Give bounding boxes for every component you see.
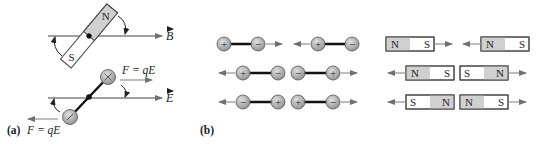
magnet-r1-b: N S — [463, 37, 529, 51]
force-bottom-label: F = qE — [26, 124, 60, 137]
svg-text:S: S — [444, 67, 450, 79]
svg-text:+: + — [221, 38, 227, 50]
svg-text:−: − — [349, 38, 355, 50]
svg-text:S: S — [424, 38, 430, 50]
panel-a-label: (a) — [7, 124, 21, 137]
torque-arrow-top-icon — [118, 16, 126, 34]
magnet-r3-a: S N — [388, 95, 454, 109]
svg-text:−: − — [240, 96, 246, 108]
top-charge-positive — [101, 70, 116, 85]
panel-b-label: (b) — [200, 124, 214, 137]
magnet-r3-b: N S — [460, 95, 526, 109]
svg-text:S: S — [498, 96, 504, 108]
svg-text:−: − — [295, 67, 301, 79]
dipole-torque-top-icon — [121, 85, 126, 97]
figure-canvas: B N S E — [0, 0, 542, 144]
svg-text:S: S — [464, 67, 470, 79]
svg-text:N: N — [486, 38, 494, 50]
panel-a: B N S E — [7, 4, 174, 137]
magnet-north-label: N — [102, 10, 110, 22]
svg-text:+: + — [295, 96, 301, 108]
svg-text:S: S — [519, 38, 525, 50]
e-field-label: E — [165, 91, 174, 105]
svg-text:N: N — [391, 38, 399, 50]
magnet-r2-a: N S — [388, 66, 454, 80]
svg-text:−: − — [275, 67, 281, 79]
panel-b-magnets: N S N S N S S N — [386, 37, 529, 109]
svg-text:+: + — [330, 67, 336, 79]
b-field-label: B — [166, 29, 174, 43]
dipole-pivot — [86, 94, 92, 100]
bottom-charge-negative — [63, 110, 78, 125]
dipole-r1-a: + − — [217, 37, 282, 51]
svg-text:S: S — [410, 96, 416, 108]
svg-text:N: N — [442, 96, 450, 108]
force-top-label: F = qE — [121, 64, 155, 77]
dipole-r2-b: − + — [291, 66, 357, 80]
svg-text:+: + — [315, 38, 321, 50]
dipole-r3-a: − + — [219, 95, 285, 109]
svg-text:+: + — [240, 67, 246, 79]
svg-text:N: N — [411, 67, 419, 79]
magnet-r1-a: N S — [386, 37, 452, 51]
torque-arrow-bottom-icon — [54, 37, 62, 56]
magnet-r2-b: S N — [460, 66, 526, 80]
magnet-south-label: S — [69, 51, 75, 63]
svg-text:−: − — [330, 96, 336, 108]
panel-b: (b) + − + − + − — [200, 37, 359, 137]
svg-text:N: N — [496, 67, 504, 79]
svg-text:N: N — [465, 96, 473, 108]
dipole-torque-bottom-icon — [54, 99, 60, 112]
dipole-r3-b: + − — [291, 95, 357, 109]
dipole-r2-a: + − — [219, 66, 285, 80]
svg-text:−: − — [255, 38, 261, 50]
svg-text:+: + — [275, 96, 281, 108]
dipole-r1-b: + − — [294, 37, 359, 51]
